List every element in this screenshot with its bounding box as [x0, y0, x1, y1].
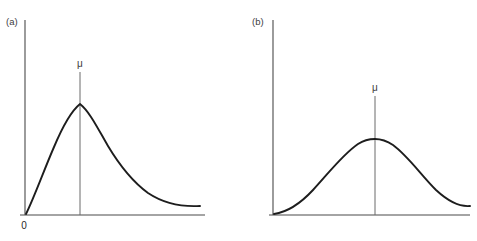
- panel-b-mu-label: μ: [372, 82, 378, 93]
- panel-a-density-curve: [26, 104, 200, 214]
- panel-a-mu-label: μ: [77, 58, 83, 69]
- chart-panel-a: (a) μ 0: [0, 0, 239, 241]
- panel-a-origin-label: 0: [21, 220, 27, 231]
- panel-a-label: (a): [6, 16, 18, 27]
- panel-b-label: (b): [252, 16, 264, 27]
- figure-container: (a) μ 0 (b) μ: [0, 0, 477, 241]
- chart-panel-b: (b) μ: [239, 0, 477, 241]
- panel-b-density-curve: [274, 139, 470, 214]
- panel-a-canvas: (a) μ 0: [0, 0, 239, 241]
- panel-b-canvas: (b) μ: [239, 0, 477, 241]
